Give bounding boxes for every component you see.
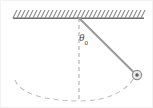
- angle-subscript: 0: [84, 39, 88, 47]
- pendulum-bob-center-dot: [135, 73, 138, 76]
- ceiling-support: [13, 10, 145, 18]
- angle-label-theta-zero: θ0: [79, 32, 88, 46]
- pendulum-illustration: [1, 1, 153, 108]
- swing-path-dashed-arc: [15, 75, 136, 101]
- pendulum-figure: θ0: [0, 0, 153, 108]
- pendulum-bob: [132, 70, 141, 79]
- ceiling-hatching: [13, 10, 145, 18]
